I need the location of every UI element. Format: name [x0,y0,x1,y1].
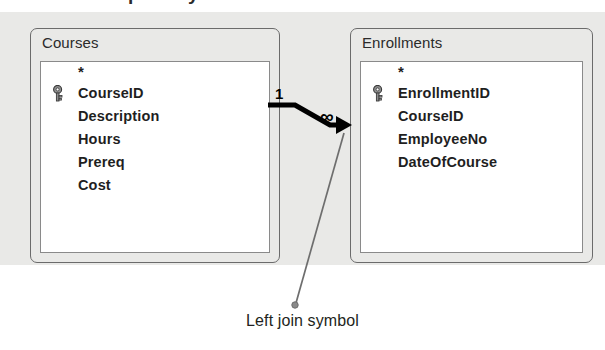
field-row[interactable]: * [41,62,269,82]
field-label: * [398,62,404,82]
field-row[interactable]: EmployeeNo [361,128,582,151]
field-label: Cost [78,174,111,197]
primary-key-icon [371,85,385,102]
field-row[interactable]: Prereq [41,151,269,174]
field-label: CourseID [78,82,144,105]
caption-leader-dot [292,302,298,308]
field-label: * [78,62,84,82]
join-cardinality-one-label: 1 [275,86,283,101]
clipped-heading-fragment-1: p [128,0,140,5]
field-list-enrollments[interactable]: * EnrollmentID CourseID Emp [360,61,583,253]
clipped-heading-fragment-2: y [188,0,199,5]
field-label: Prereq [78,151,125,174]
field-row[interactable]: DateOfCourse [361,151,582,174]
field-label: Description [78,105,159,128]
join-cardinality-many-label: ∞ [320,107,333,126]
field-label: EnrollmentID [398,82,490,105]
field-label: Hours [78,128,121,151]
field-row[interactable]: Hours [41,128,269,151]
query-design-canvas: Courses * CourseID Descripti [0,12,605,265]
table-title-enrollments: Enrollments [362,34,442,51]
field-label: DateOfCourse [398,151,497,174]
field-row[interactable]: * [361,62,582,82]
field-row[interactable]: CourseID [361,105,582,128]
field-row[interactable]: CourseID [41,82,269,105]
table-box-enrollments[interactable]: Enrollments * EnrollmentID C [350,28,593,263]
field-label: CourseID [398,105,464,128]
table-box-courses[interactable]: Courses * CourseID Descripti [30,28,280,263]
table-title-courses: Courses [42,34,99,51]
field-list-courses[interactable]: * CourseID Description Hour [40,61,270,253]
clipped-heading: p y [0,0,605,12]
primary-key-icon [51,85,65,102]
field-row[interactable]: Description [41,105,269,128]
field-row[interactable]: Cost [41,174,269,197]
figure-caption: Left join symbol [0,312,605,330]
field-label: EmployeeNo [398,128,487,151]
field-row[interactable]: EnrollmentID [361,82,582,105]
